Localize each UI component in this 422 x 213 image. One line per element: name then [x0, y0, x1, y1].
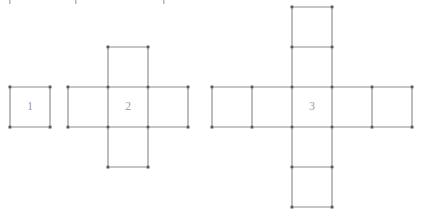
- vertex-dot: [331, 126, 334, 129]
- vertex-dot: [147, 46, 150, 49]
- pattern-sequence-diagram: 123: [0, 0, 422, 213]
- vertex-dot: [331, 6, 334, 9]
- vertex-dot: [331, 46, 334, 49]
- vertex-dot: [67, 86, 70, 89]
- diagram-canvas: 123: [0, 0, 422, 213]
- figure-1[interactable]: 1: [9, 86, 52, 129]
- crop-remnant: [9, 0, 11, 4]
- figure-label-1: 1: [27, 100, 33, 112]
- vertex-dot: [107, 86, 110, 89]
- vertex-dot: [147, 166, 150, 169]
- figure-2[interactable]: 2: [67, 46, 190, 169]
- vertex-dot: [211, 126, 214, 129]
- crop-remnant: [75, 0, 77, 4]
- vertex-dot: [107, 126, 110, 129]
- figure-label-3: 3: [309, 100, 315, 112]
- vertex-dot: [291, 126, 294, 129]
- figures-group: 123: [9, 6, 414, 209]
- vertex-dot: [187, 86, 190, 89]
- vertex-dot: [67, 126, 70, 129]
- vertex-dot: [147, 126, 150, 129]
- vertex-dot: [291, 6, 294, 9]
- vertex-dot: [107, 46, 110, 49]
- vertex-dot: [291, 206, 294, 209]
- vertex-dot: [291, 86, 294, 89]
- vertex-dot: [107, 166, 110, 169]
- vertex-dot: [371, 86, 374, 89]
- figure-3[interactable]: 3: [211, 6, 414, 209]
- vertex-dot: [49, 86, 52, 89]
- vertex-dot: [211, 86, 214, 89]
- vertex-dot: [331, 166, 334, 169]
- crop-remnant: [163, 0, 165, 4]
- vertex-dot: [251, 126, 254, 129]
- vertex-dot: [9, 86, 12, 89]
- vertex-dot: [411, 86, 414, 89]
- figure-label-2: 2: [125, 100, 131, 112]
- vertex-dot: [411, 126, 414, 129]
- vertex-dot: [147, 86, 150, 89]
- vertex-dot: [187, 126, 190, 129]
- vertex-dot: [9, 126, 12, 129]
- vertex-dot: [291, 166, 294, 169]
- vertex-dot: [251, 86, 254, 89]
- vertex-dot: [49, 126, 52, 129]
- vertex-dot: [371, 126, 374, 129]
- vertex-dot: [331, 86, 334, 89]
- crop-remnant-group: [9, 0, 165, 4]
- vertex-dot: [291, 46, 294, 49]
- vertex-dot: [331, 206, 334, 209]
